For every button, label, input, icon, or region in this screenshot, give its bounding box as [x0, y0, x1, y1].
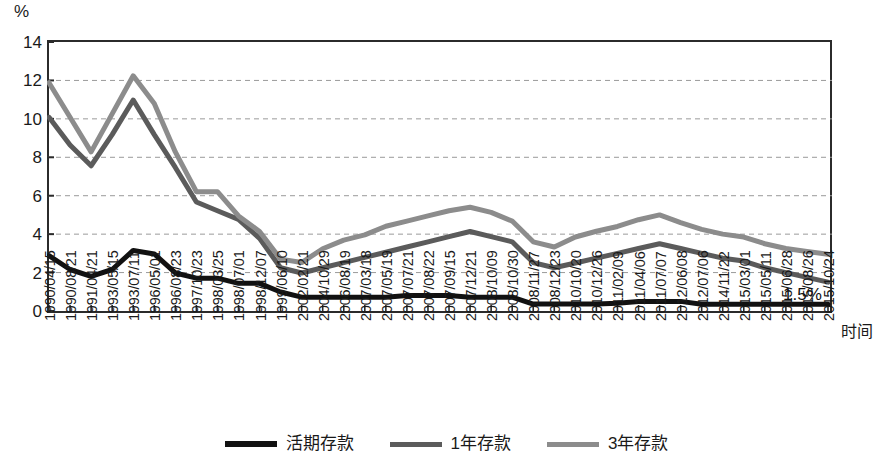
y-axis-tick-label: 4	[2, 226, 42, 243]
annotation-final-demand-rate: 1.5%	[783, 286, 822, 304]
chart-legend: 活期存款1年存款3年存款	[0, 430, 893, 458]
y-axis-tick-label: 14	[2, 34, 42, 51]
legend-line-swatch	[390, 442, 442, 447]
y-axis-tick-label: 6	[2, 188, 42, 205]
y-axis-tick-labels: 02468101214	[0, 0, 42, 459]
plot-canvas	[47, 40, 832, 313]
series-lines	[49, 76, 828, 304]
legend-item-2[interactable]: 1年存款	[390, 435, 511, 453]
y-axis-tick-label: 0	[2, 303, 42, 320]
gridlines	[47, 42, 832, 311]
deposit-rate-line-chart: % 02468101214 1990/04/151990/08/211991/0…	[0, 0, 893, 459]
legend-item-1[interactable]: 活期存款	[225, 435, 354, 453]
y-axis-tick-label: 10	[2, 111, 42, 128]
y-axis-tick-label: 2	[2, 265, 42, 282]
legend-item-3[interactable]: 3年存款	[547, 435, 668, 453]
legend-label: 活期存款	[286, 435, 354, 453]
legend-line-swatch	[225, 441, 277, 447]
legend-label: 3年存款	[608, 435, 668, 453]
legend-label: 1年存款	[451, 435, 511, 453]
y-axis-tick-label: 8	[2, 149, 42, 166]
legend-line-swatch	[547, 442, 599, 447]
y-axis-tick-label: 12	[2, 72, 42, 89]
series-line-1	[49, 250, 828, 304]
x-axis-title: 时间	[841, 323, 873, 341]
